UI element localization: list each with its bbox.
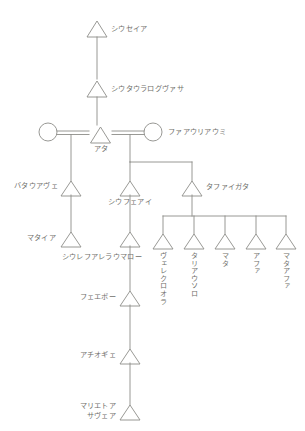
person-label-p11: ヴェレクロオラ xyxy=(159,252,167,305)
person-symbol-triangle-p6[interactable] xyxy=(61,181,81,196)
person-symbol-triangle-p17[interactable] xyxy=(120,349,140,364)
person-symbol-triangle-p1[interactable] xyxy=(87,21,107,37)
person-label-p15: マタアファ xyxy=(282,252,290,290)
person-label-p14: アファ xyxy=(252,252,260,275)
person-symbol-triangle-p9[interactable] xyxy=(61,232,81,247)
person-symbol-triangle-p18[interactable] xyxy=(120,405,140,420)
person-symbol-triangle-p4[interactable] xyxy=(91,127,111,143)
person-symbol-triangle-p10[interactable] xyxy=(120,232,140,247)
person-label-p17: アチオギェ xyxy=(56,351,116,360)
person-symbol-triangle-p12[interactable] xyxy=(184,234,204,249)
person-symbol-triangle-p11[interactable] xyxy=(153,234,173,249)
person-label-p6: バタウアヴェ xyxy=(2,182,58,191)
person-label-p16: フェエボー xyxy=(56,293,116,302)
person-symbol-triangle-p7[interactable] xyxy=(120,181,140,196)
person-symbol-triangle-p14[interactable] xyxy=(246,234,266,249)
person-label-p18-line1: マリエトア xyxy=(80,402,117,410)
person-symbol-triangle-p15[interactable] xyxy=(276,234,296,249)
person-symbol-circle-p3[interactable] xyxy=(39,123,57,141)
person-symbol-triangle-p13[interactable] xyxy=(215,234,235,249)
person-label-p1: シウセイア xyxy=(111,25,148,34)
person-label-p7: シウフェアイ xyxy=(90,198,170,207)
kinship-diagram-svg xyxy=(0,0,305,431)
person-symbol-circle-p5[interactable] xyxy=(144,123,162,141)
person-symbol-triangle-p8[interactable] xyxy=(182,181,202,196)
person-label-p4: アタ xyxy=(85,145,117,154)
person-label-p8: タファイガタ xyxy=(206,183,250,192)
person-label-p9: マタイア xyxy=(2,234,56,243)
person-label-p18: マリエトア サヴェア xyxy=(52,402,116,421)
person-symbol-triangle-p2[interactable] xyxy=(87,81,107,97)
person-label-p5: ファアウリアウミ xyxy=(168,128,226,137)
person-label-p18-line2: サヴェア xyxy=(87,412,116,420)
person-label-p13: マタ xyxy=(221,252,229,267)
person-label-p12: タリアウソロ xyxy=(190,252,198,298)
person-label-p2: シウタウラログヴァサ xyxy=(111,85,184,94)
genealogy-chart: シウセイア シウタウラログヴァサ アタ ファアウリアウミ バタウアヴェ シウフェ… xyxy=(0,0,305,431)
person-symbol-triangle-p16[interactable] xyxy=(120,291,140,306)
person-label-p10: シウレフアレラウマロー xyxy=(42,253,142,262)
